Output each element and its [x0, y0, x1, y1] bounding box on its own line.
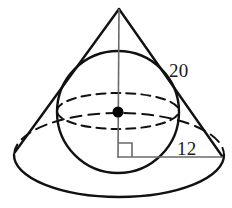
- right-angle-mark: [118, 143, 132, 157]
- geometry-figure: 20 12: [0, 0, 232, 208]
- cone-base-front-arc: [14, 155, 224, 197]
- cone-axis-line: [118, 9, 119, 158]
- base-radius-label: 12: [177, 139, 197, 158]
- cone-sphere-diagram: [0, 0, 232, 208]
- slant-height-label: 20: [169, 61, 189, 80]
- sphere-center-dot: [113, 107, 124, 118]
